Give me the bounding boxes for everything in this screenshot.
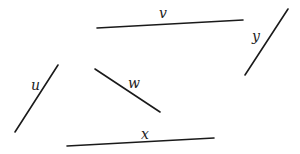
label-u: u bbox=[31, 77, 40, 93]
label-w: w bbox=[128, 75, 140, 91]
segment-v bbox=[97, 20, 243, 28]
label-v: v bbox=[159, 5, 167, 21]
label-y: y bbox=[251, 28, 261, 44]
line-segments-diagram: v y u w x bbox=[0, 0, 300, 154]
label-x: x bbox=[141, 126, 149, 142]
segment-u bbox=[15, 65, 58, 132]
